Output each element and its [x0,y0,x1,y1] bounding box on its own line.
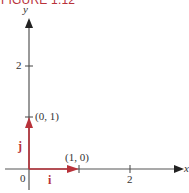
vector-j-arrowhead-icon [25,117,33,128]
vector-j-label: j [18,139,22,154]
point-label-0-1: (0, 1) [35,110,59,122]
x-tick-label-2: 2 [127,173,133,185]
vector-j [25,117,33,169]
point-label-1-0: (1, 0) [65,151,89,163]
vector-i-label: i [48,173,51,188]
coordinate-plane [0,0,189,193]
x-axis-label: x [184,162,189,174]
vector-i [29,165,79,173]
y-axis-arrow-icon [25,18,33,28]
y-axis-label: y [23,3,28,15]
y-tick-label-2: 2 [16,59,22,71]
origin-label: 0 [20,172,26,184]
x-axis-arrow-icon [174,165,184,173]
vector-i-arrowhead-icon [67,165,79,173]
